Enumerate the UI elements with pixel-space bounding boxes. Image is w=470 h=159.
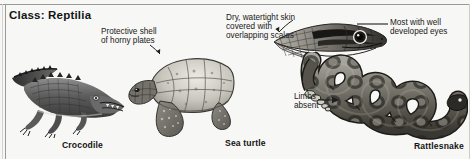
caption-sea-turtle: Sea turtle — [225, 138, 266, 148]
callout-protective-shell: Protective shell of horny plates — [101, 27, 157, 45]
caption-rattlesnake: Rattlesnake — [414, 141, 464, 151]
caption-crocodile: Crocodile — [62, 140, 103, 150]
callout-developed-eyes: Most with well developed eyes — [390, 18, 447, 36]
reptilia-figure: Class: Reptilia — [0, 0, 470, 159]
callout-limbs-absent: Limbs absent — [294, 92, 319, 110]
callout-dry-skin: Dry, watertight skin covered with overla… — [226, 13, 295, 41]
